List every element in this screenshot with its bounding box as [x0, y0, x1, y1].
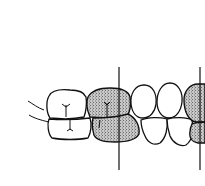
dental-diagram: [0, 0, 205, 186]
gum-lines: [28, 101, 49, 122]
lower-incisors: [141, 118, 193, 146]
upper-incisors: [131, 83, 182, 118]
lower-premolar-shaded: [92, 114, 139, 142]
lower-molar: [48, 118, 91, 140]
upper-premolar-shaded: [87, 88, 130, 118]
upper-molar: [47, 90, 87, 119]
